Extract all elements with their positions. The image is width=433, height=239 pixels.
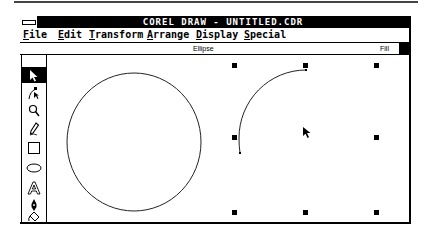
menu-display[interactable]: Display bbox=[196, 28, 238, 42]
selection-handle-bottom-middle[interactable] bbox=[303, 210, 308, 215]
arc-start-node[interactable] bbox=[305, 69, 307, 71]
rectangle-icon bbox=[27, 141, 41, 155]
menu-special-label: pecial bbox=[250, 29, 286, 40]
window-title: COREL DRAW - UNTITLED.CDR bbox=[37, 16, 409, 28]
selected-arc-object[interactable] bbox=[239, 70, 306, 153]
menu-arrange-label: rrange bbox=[153, 29, 189, 40]
menu-edit[interactable]: Edit bbox=[58, 28, 82, 42]
status-fill-label: Fill bbox=[380, 43, 389, 54]
pen-nib-icon bbox=[30, 199, 38, 211]
letter-a-icon bbox=[26, 181, 42, 195]
menu-file-label: ile bbox=[29, 29, 47, 40]
menu-display-label: isplay bbox=[202, 29, 238, 40]
node-edit-icon bbox=[27, 86, 41, 100]
toolbox bbox=[21, 55, 47, 222]
ellipse-tool[interactable] bbox=[22, 158, 46, 177]
paint-bucket-icon bbox=[27, 212, 41, 222]
menu-special[interactable]: Special bbox=[244, 28, 286, 42]
selection-handle-middle-right[interactable] bbox=[374, 135, 379, 140]
arc-end-node[interactable] bbox=[239, 152, 241, 154]
menu-transform-label: ransform bbox=[95, 29, 143, 40]
pick-tool[interactable] bbox=[22, 68, 46, 83]
status-bar: Ellipse Fill bbox=[20, 43, 409, 55]
selection-handle-middle-left[interactable] bbox=[232, 135, 237, 140]
selection-handle-top-middle[interactable] bbox=[303, 63, 308, 68]
status-object-type: Ellipse bbox=[193, 43, 214, 54]
toolbox-header bbox=[22, 55, 46, 68]
pencil-tool[interactable] bbox=[22, 120, 46, 137]
corel-draw-window: COREL DRAW - UNTITLED.CDR File Edit Tran… bbox=[20, 16, 411, 224]
status-fill-swatch bbox=[399, 43, 409, 54]
mouse-cursor-icon bbox=[302, 126, 312, 139]
shape-tool[interactable] bbox=[22, 84, 46, 101]
arrow-pointer-icon bbox=[28, 69, 40, 82]
outline-tool[interactable] bbox=[22, 198, 46, 212]
drawing-surface bbox=[47, 55, 409, 222]
magnifier-icon bbox=[28, 104, 40, 117]
title-bar[interactable]: COREL DRAW - UNTITLED.CDR bbox=[20, 16, 409, 28]
menu-transform[interactable]: Transform bbox=[89, 28, 143, 42]
text-tool[interactable] bbox=[22, 178, 46, 197]
selection-handle-bottom-right[interactable] bbox=[374, 210, 379, 215]
menu-arrange[interactable]: Arrange bbox=[147, 28, 189, 42]
selection-handle-top-right[interactable] bbox=[374, 63, 379, 68]
selection-handle-bottom-left[interactable] bbox=[232, 210, 237, 215]
system-menu-button[interactable] bbox=[20, 16, 37, 28]
drawing-canvas[interactable] bbox=[47, 55, 409, 222]
rectangle-tool[interactable] bbox=[22, 138, 46, 157]
selection-handle-top-left[interactable] bbox=[232, 63, 237, 68]
menu-edit-label: dit bbox=[64, 29, 82, 40]
pencil-icon bbox=[28, 122, 40, 136]
circle-object[interactable] bbox=[67, 73, 201, 211]
menu-file[interactable]: File bbox=[23, 28, 47, 42]
ellipse-icon bbox=[26, 163, 42, 173]
system-menu-icon bbox=[22, 20, 36, 25]
fill-tool[interactable] bbox=[22, 212, 46, 222]
screen-top-rule bbox=[14, 1, 418, 3]
zoom-tool[interactable] bbox=[22, 102, 46, 119]
menu-bar: File Edit Transform Arrange Display Spec… bbox=[20, 28, 409, 43]
